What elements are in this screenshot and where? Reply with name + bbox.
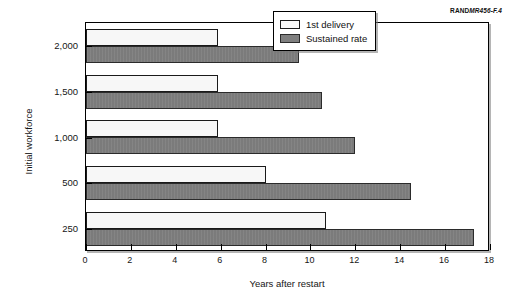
y-tick-mark <box>86 92 92 93</box>
figure-id-brand: RAND <box>450 7 469 14</box>
legend: 1st delivery Sustained rate <box>273 11 376 51</box>
legend-label-sustained-rate: Sustained rate <box>306 33 367 44</box>
x-tick-mark <box>266 244 267 250</box>
bar-group <box>86 160 488 206</box>
figure-root: RANDMR456-F.4 024681012141618 2,0001,500… <box>0 0 515 303</box>
y-axis-title: Initial workforce <box>23 67 34 217</box>
x-tick-mark <box>131 244 132 250</box>
bar-sustained-rate <box>86 183 411 200</box>
white-swatch-icon <box>280 20 300 29</box>
bar-first-delivery <box>86 120 218 137</box>
figure-id-code: MR456-F.4 <box>469 7 502 14</box>
legend-item-sustained-rate: Sustained rate <box>280 31 367 45</box>
x-tick-label: 6 <box>205 255 235 265</box>
y-tick-label: 500 <box>26 177 78 188</box>
bar-first-delivery <box>86 212 326 229</box>
x-tick-mark <box>221 244 222 250</box>
x-tick-label: 10 <box>294 255 324 265</box>
y-tick-mark <box>86 229 92 230</box>
y-tick-label: 250 <box>26 223 78 234</box>
x-tick-label: 2 <box>115 255 145 265</box>
bar-sustained-rate <box>86 229 474 246</box>
x-tick-label: 14 <box>384 255 414 265</box>
y-tick-mark <box>86 183 92 184</box>
bar-group <box>86 115 488 161</box>
y-tick-label: 1,000 <box>26 131 78 142</box>
bars-layer <box>86 23 488 250</box>
bar-first-delivery <box>86 166 266 183</box>
x-tick-label: 4 <box>160 255 190 265</box>
x-tick-mark <box>86 244 87 250</box>
bar-first-delivery <box>86 75 218 92</box>
x-axis-title: Years after restart <box>85 278 489 289</box>
x-tick-label: 18 <box>474 255 504 265</box>
legend-label-first-delivery: 1st delivery <box>306 19 354 30</box>
bar-first-delivery <box>86 29 218 46</box>
x-tick-label: 16 <box>429 255 459 265</box>
x-tick-mark <box>445 244 446 250</box>
y-tick-label: 2,000 <box>26 39 78 50</box>
bar-group <box>86 206 488 252</box>
x-tick-label: 0 <box>70 255 100 265</box>
y-tick-mark <box>86 138 92 139</box>
legend-item-first-delivery: 1st delivery <box>280 17 367 31</box>
x-tick-mark <box>176 244 177 250</box>
bar-sustained-rate <box>86 46 299 63</box>
bar-group <box>86 69 488 115</box>
x-tick-mark <box>400 244 401 250</box>
x-tick-label: 12 <box>339 255 369 265</box>
y-tick-label: 1,500 <box>26 85 78 96</box>
x-tick-mark <box>490 244 491 250</box>
plot-area <box>85 22 489 251</box>
y-tick-mark <box>86 46 92 47</box>
gray-swatch-icon <box>280 34 300 43</box>
bar-sustained-rate <box>86 137 355 154</box>
x-tick-label: 8 <box>250 255 280 265</box>
bar-sustained-rate <box>86 92 322 109</box>
x-tick-mark <box>310 244 311 250</box>
figure-id-label: RANDMR456-F.4 <box>450 7 502 14</box>
x-tick-mark <box>355 244 356 250</box>
